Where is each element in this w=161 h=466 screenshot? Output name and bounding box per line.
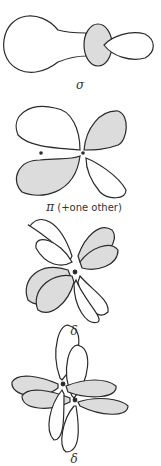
sigma-label: σ bbox=[70, 78, 90, 92]
delta-orbital-2 bbox=[12, 325, 128, 452]
pi-label: π (+one other) bbox=[44, 200, 124, 214]
orbital-diagram bbox=[0, 0, 161, 466]
delta-label-1: δ bbox=[64, 324, 84, 338]
pi-note: (+one other) bbox=[57, 202, 122, 213]
delta-orbital-1 bbox=[26, 219, 118, 322]
sigma-orbital bbox=[4, 16, 154, 72]
delta-label-2: δ bbox=[64, 452, 84, 466]
nucleus-dot bbox=[81, 151, 85, 155]
pi-orbital bbox=[16, 107, 126, 198]
nucleus-dot bbox=[39, 151, 43, 155]
pi-symbol: π bbox=[46, 200, 54, 214]
